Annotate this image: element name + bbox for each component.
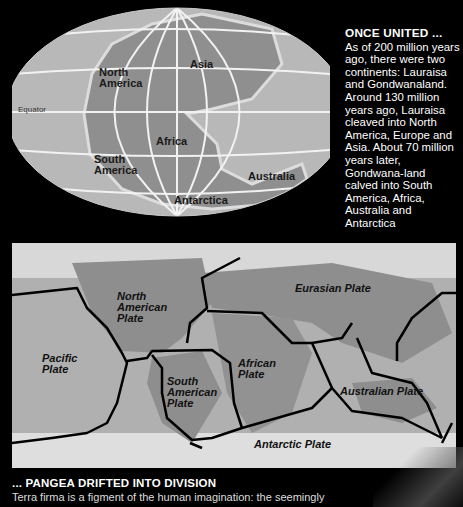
caption: ... PANGEA DRIFTED INTO DIVISION Terra f… — [12, 477, 324, 503]
label-equator: Equator — [18, 104, 46, 115]
panel-body: As of 200 million years ago, there were … — [345, 41, 460, 230]
panel-title: ONCE UNITED ... — [345, 27, 460, 40]
decorative-glow — [373, 447, 463, 507]
plates-map-graphic — [12, 243, 456, 468]
label-eurasian-plate: Eurasian Plate — [295, 283, 371, 294]
label-pacific-plate: Pacific Plate — [42, 353, 77, 375]
label-australia: Australia — [248, 171, 295, 182]
caption-title: ... PANGEA DRIFTED INTO DIVISION — [12, 477, 324, 489]
caption-body: Terra firma is a figment of the human im… — [12, 491, 324, 503]
label-asia: Asia — [190, 59, 213, 70]
label-australian-plate: Australian Plate — [340, 386, 423, 397]
label-north-american-plate: North American Plate — [117, 291, 167, 324]
label-africa: Africa — [156, 136, 187, 147]
label-north-america: North America — [99, 67, 142, 89]
label-antarctic-plate: Antarctic Plate — [254, 439, 331, 450]
pangea-map-graphic — [12, 4, 330, 219]
label-south-america: South America — [94, 154, 137, 176]
pangea-map: North America Asia Equator Africa South … — [12, 4, 330, 219]
label-south-american-plate: South American Plate — [167, 376, 217, 409]
tectonic-plates-map: North American Plate Eurasian Plate Paci… — [12, 243, 456, 468]
label-antarctica: Antarctica — [174, 195, 228, 206]
label-african-plate: African Plate — [238, 358, 276, 380]
once-united-panel: ONCE UNITED ... As of 200 million years … — [345, 27, 460, 230]
